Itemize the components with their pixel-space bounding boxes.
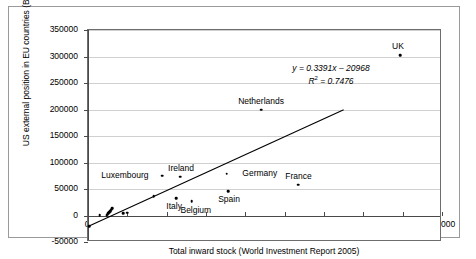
y-tick-label: 300000 [9, 52, 78, 61]
data-point [126, 212, 129, 215]
data-point [122, 212, 125, 215]
y-axis-line [88, 30, 89, 240]
data-point-label: France [285, 172, 311, 181]
data-point-label: Luxembourg [101, 171, 148, 180]
y-tick-label: -50000 [9, 237, 78, 246]
zero-axis-line [88, 216, 440, 217]
r-squared-line: R2 = 0.7476 [266, 74, 396, 87]
regression-annotation: y = 0.3391x – 20968 R2 = 0.7476 [266, 62, 396, 87]
data-point [226, 172, 229, 175]
data-point [175, 197, 178, 200]
y-tick-label: 200000 [9, 105, 78, 114]
data-point [88, 225, 91, 228]
data-point [179, 176, 182, 179]
r-squared-value: = 0.7476 [320, 76, 353, 86]
regression-equation: y = 0.3391x – 20968 [266, 62, 396, 74]
y-axis-title: US external position in EU countries (BE… [22, 0, 31, 150]
y-tick-label: 50000 [9, 184, 78, 193]
data-point-label: Belgium [180, 206, 211, 215]
gridline [88, 110, 440, 111]
data-point [152, 195, 155, 198]
gridline [88, 189, 440, 190]
data-point-label: Germany [242, 169, 277, 178]
data-point [399, 54, 402, 57]
x-tick [442, 212, 443, 216]
data-point [161, 174, 164, 177]
y-tick-label: 0 [9, 211, 78, 220]
data-point [260, 108, 263, 111]
chart-figure: US external position in EU countries (BE… [0, 0, 476, 259]
gridline [88, 136, 440, 137]
data-point [99, 214, 102, 217]
data-point-label: UK [392, 42, 404, 51]
chart-frame: US external position in EU countries (BE… [8, 6, 460, 238]
plot-area: UKNetherlandsGermanyIrelandLuxembourgFra… [87, 29, 441, 241]
x-axis-title: Total inward stock (World Investment Rep… [87, 247, 441, 256]
data-point-label: Netherlands [238, 97, 284, 106]
y-tick-label: 350000 [9, 25, 78, 34]
data-point [106, 214, 109, 217]
data-point [227, 190, 230, 193]
gridline [88, 163, 440, 164]
gridline [88, 57, 440, 58]
data-point-label: Ireland [168, 164, 194, 173]
y-tick-label: 250000 [9, 78, 78, 87]
r-squared-exponent: 2 [315, 75, 318, 81]
y-tick-label: 150000 [9, 131, 78, 140]
data-point [191, 200, 194, 203]
gridline [88, 30, 440, 31]
y-tick [84, 242, 88, 243]
data-point [297, 183, 300, 186]
data-point-label: Spain [218, 195, 240, 204]
y-tick-label: 100000 [9, 158, 78, 167]
